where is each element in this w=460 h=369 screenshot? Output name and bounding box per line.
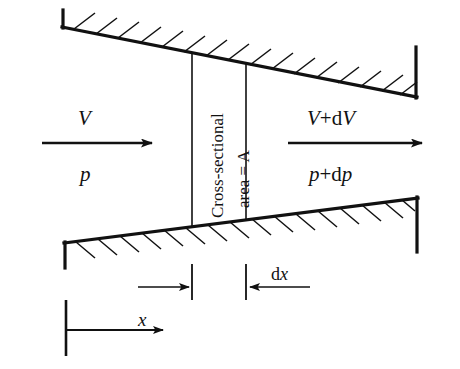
- inlet-velocity-label: V: [78, 108, 91, 129]
- figure-canvas: V p V+dV p+dp dx x Cross-sectional area …: [0, 0, 460, 369]
- outlet-pressure-differential-d: d: [331, 162, 342, 186]
- outlet-pressure-label: p+dp: [309, 164, 352, 185]
- outlet-pressure-plus: +: [320, 162, 332, 186]
- outlet-velocity-plus: +: [320, 106, 332, 130]
- dx-label: dx: [271, 265, 288, 283]
- outlet-pressure-differential-symbol: p: [342, 162, 353, 186]
- control-volume-label-line1: Cross-sectional: [209, 113, 226, 218]
- outlet-pressure-symbol: p: [309, 162, 320, 186]
- inlet-pressure-label: p: [80, 164, 91, 185]
- duct-flow-diagram: [0, 0, 460, 369]
- dx-differential-d: d: [271, 264, 280, 284]
- upper-wall-line: [62, 27, 417, 97]
- outlet-velocity-symbol: V: [307, 106, 320, 130]
- outlet-velocity-label: V+dV: [307, 108, 355, 129]
- x-dimension: [66, 300, 163, 356]
- control-volume-label-line2: area = A: [235, 150, 252, 208]
- outlet-velocity-differential-symbol: V: [342, 106, 355, 130]
- outlet-velocity-differential-d: d: [332, 106, 343, 130]
- dx-variable-symbol: x: [280, 264, 288, 284]
- x-distance-label: x: [138, 310, 146, 329]
- upper-wall: [62, 10, 417, 98]
